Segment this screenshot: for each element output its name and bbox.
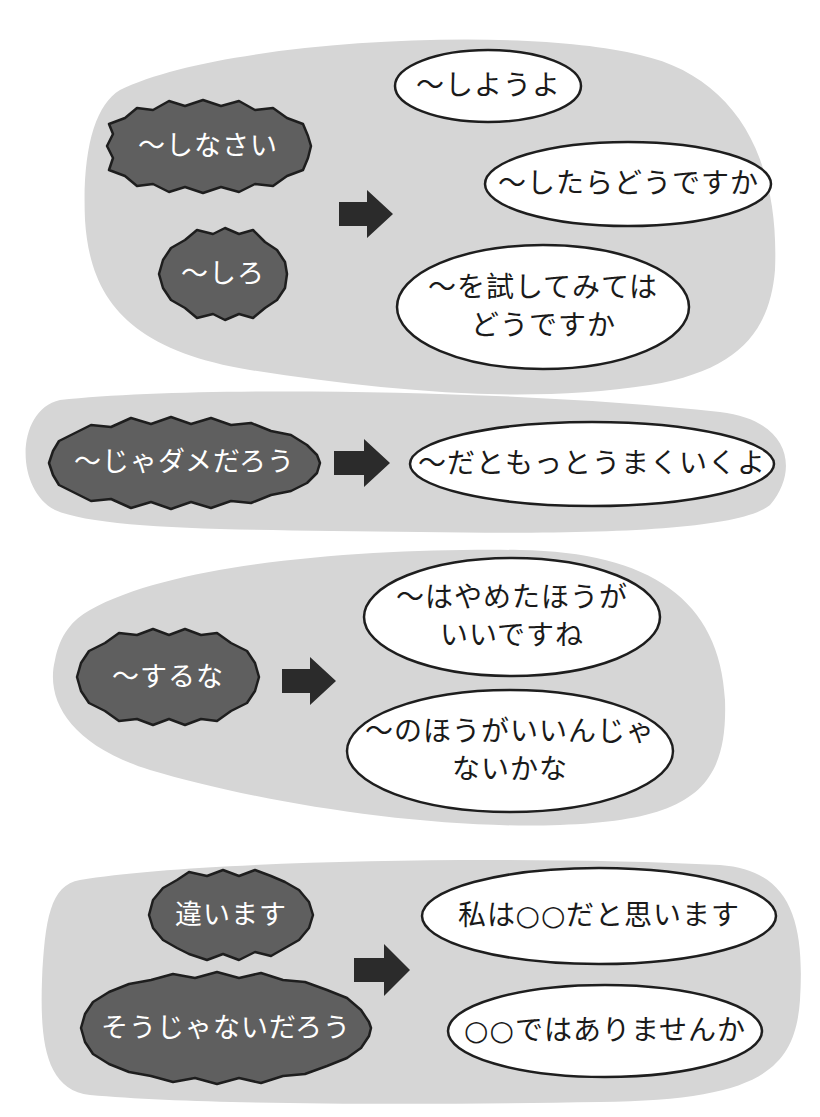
negative-phrase: 〜じゃダメだろう <box>74 444 295 480</box>
negative-bubble: 〜するな <box>73 627 263 727</box>
positive-phrase: 〜したらどうですか <box>498 165 759 203</box>
positive-phrase: 〜はやめたほうが いいですね <box>396 579 628 655</box>
negative-bubble: 〜じゃダメだろう <box>45 415 323 510</box>
negative-phrase: 〜しろ <box>181 256 265 292</box>
positive-bubble: 私は○○だと思います <box>420 866 778 966</box>
negative-bubble: 〜しなさい <box>103 98 313 194</box>
positive-phrase: 〜だともっとうまくいくよ <box>418 445 766 483</box>
positive-phrase: ○○ではありませんか <box>464 1012 746 1050</box>
negative-bubble: 〜しろ <box>155 226 291 322</box>
positive-phrase: 〜のほうがいいんじゃ ないかな <box>365 713 655 789</box>
right-arrow-icon <box>280 655 338 707</box>
positive-phrase: 〜を試してみては どうですか <box>428 269 658 345</box>
negative-phrase: 〜するな <box>112 659 224 695</box>
negative-phrase: 〜しなさい <box>138 128 278 164</box>
negative-phrase: 違います <box>175 897 287 933</box>
phrase-diagram: 〜しなさい 〜しろ 〜しようよ 〜したらどうですか 〜を試してみては どうですか… <box>0 0 820 1117</box>
positive-bubble: 〜はやめたほうが いいですね <box>362 556 662 678</box>
negative-bubble: そうじゃないだろう <box>77 970 375 1086</box>
right-arrow-icon <box>332 437 392 489</box>
negative-phrase: そうじゃないだろう <box>101 1010 351 1046</box>
right-arrow-icon <box>352 942 412 998</box>
positive-bubble: 〜しようよ <box>393 48 583 124</box>
positive-phrase: 〜しようよ <box>416 67 561 105</box>
positive-bubble: 〜のほうがいいんじゃ ないかな <box>345 688 675 814</box>
positive-phrase: 私は○○だと思います <box>458 897 741 935</box>
positive-bubble: ○○ではありませんか <box>446 983 764 1079</box>
negative-bubble: 違います <box>145 868 317 962</box>
positive-bubble: 〜を試してみては どうですか <box>395 243 691 371</box>
right-arrow-icon <box>337 188 395 240</box>
positive-bubble: 〜したらどうですか <box>483 140 773 228</box>
positive-bubble: 〜だともっとうまくいくよ <box>408 420 776 508</box>
